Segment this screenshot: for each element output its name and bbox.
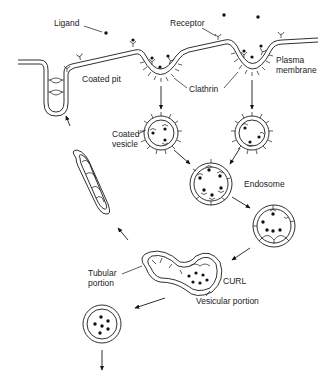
endosome — [190, 159, 232, 205]
label-curl: CURL — [223, 276, 246, 286]
label-coated-vesicle-2: vesicle — [112, 139, 138, 149]
labels: Ligand Receptor Plasma membrane Coated p… — [54, 18, 317, 306]
recycling-vesicle — [73, 150, 109, 214]
label-tubular-portion-2: portion — [88, 278, 114, 288]
coated-pit-invagination — [48, 54, 83, 95]
label-coated-vesicle-1: Coated — [112, 129, 140, 139]
clathrin-coat-left-pit — [140, 54, 182, 82]
label-clathrin: Clathrin — [189, 84, 219, 94]
ligand-vesicle — [83, 305, 121, 343]
plasma-membrane — [18, 38, 318, 116]
clathrin-coat-right-pit — [231, 44, 273, 76]
label-tubular-portion-1: Tubular — [88, 268, 117, 278]
label-plasma-membrane-2: membrane — [276, 65, 317, 75]
curl — [142, 251, 222, 295]
pathway-arrows — [66, 80, 252, 370]
coated-vesicle-left — [140, 112, 182, 154]
endocytosis-diagram: Ligand Receptor Plasma membrane Coated p… — [0, 0, 335, 382]
label-ligand: Ligand — [54, 18, 80, 28]
label-plasma-membrane-1: Plasma — [276, 55, 305, 65]
label-vesicular-portion: Vesicular portion — [196, 296, 259, 306]
endosome-late — [253, 205, 295, 247]
coated-vesicle-right — [231, 112, 273, 154]
label-endosome: Endosome — [244, 179, 285, 189]
label-receptor: Receptor — [170, 18, 205, 28]
label-coated-pit: Coated pit — [82, 74, 121, 84]
